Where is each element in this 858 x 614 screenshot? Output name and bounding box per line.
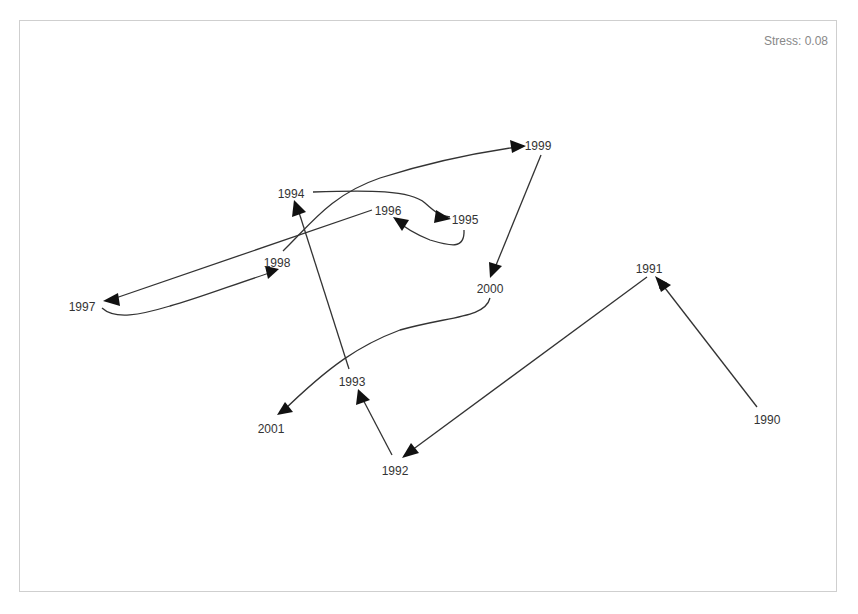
arrow-2000-2001 bbox=[281, 298, 490, 413]
arrow-1998-1999 bbox=[283, 146, 524, 251]
arrowhead-1997 bbox=[103, 293, 120, 306]
point-label-1998: 1998 bbox=[264, 256, 291, 270]
arrowhead-1993 bbox=[356, 389, 370, 405]
arrowhead-1999 bbox=[510, 140, 526, 153]
point-label-1995: 1995 bbox=[452, 213, 479, 227]
arrowhead-2000 bbox=[489, 262, 502, 278]
point-label-1997: 1997 bbox=[69, 300, 96, 314]
point-label-1992: 1992 bbox=[382, 464, 409, 478]
arrowhead-1996 bbox=[393, 217, 409, 231]
arrow-1991-1992 bbox=[404, 277, 647, 456]
arrow-1993-1994 bbox=[296, 203, 349, 369]
point-label-1990: 1990 bbox=[754, 413, 781, 427]
arrow-1996-1997 bbox=[107, 210, 372, 301]
arrowhead-1991 bbox=[655, 276, 671, 292]
point-label-2001: 2001 bbox=[258, 422, 285, 436]
point-label-2000: 2000 bbox=[477, 282, 504, 296]
point-label-1993: 1993 bbox=[339, 375, 366, 389]
arrow-1997-1998 bbox=[102, 271, 276, 315]
arrow-1999-2000 bbox=[492, 155, 541, 275]
point-label-1994: 1994 bbox=[278, 187, 305, 201]
point-label-1991: 1991 bbox=[636, 262, 663, 276]
point-label-1996: 1996 bbox=[375, 204, 402, 218]
arrowhead-1994 bbox=[292, 200, 306, 217]
point-label-1999: 1999 bbox=[525, 139, 552, 153]
arrowhead-1992 bbox=[402, 443, 419, 458]
arrow-1990-1991 bbox=[658, 279, 757, 407]
mds-plot: 1990 1991 1992 1993 1994 1995 1996 1997 … bbox=[0, 0, 858, 614]
